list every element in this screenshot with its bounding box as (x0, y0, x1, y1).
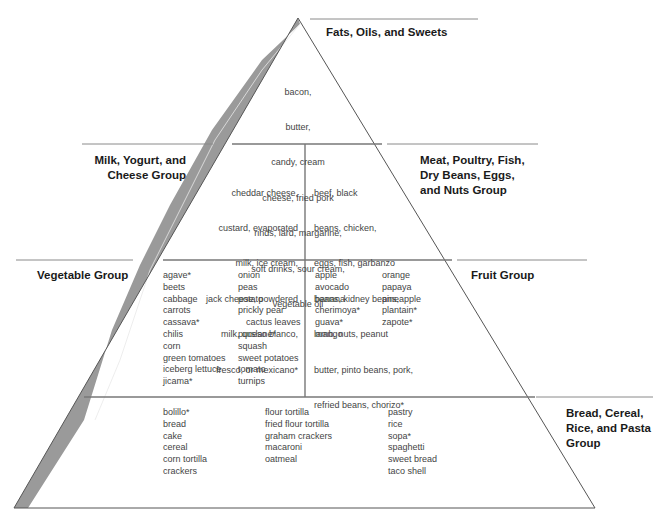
label-line-text: Rice, and Pasta (566, 421, 651, 436)
food-item: bolillo* (163, 407, 207, 419)
food-item: potato (238, 294, 301, 306)
food-item: guava* (315, 317, 360, 329)
food-item: taco shell (388, 466, 437, 478)
food-item: fried flour tortilla (265, 419, 332, 431)
food-item: plantain* (382, 305, 421, 317)
food-item: iceberg lettuce (163, 364, 226, 376)
foods-vegetable-col1: agave* beets cabbage carrots cassava* ch… (163, 270, 226, 388)
label-line-text: and Nuts Group (420, 183, 525, 198)
food-item: cabbage (163, 294, 226, 306)
foods-bread-col1: bolillo* bread cake cereal corn tortilla… (163, 407, 207, 478)
food-item: cake (163, 431, 207, 443)
label-meat-group: Meat, Poultry, Fish, Dry Beans, Eggs, an… (420, 153, 525, 198)
food-item: corn (163, 341, 226, 353)
food-item: orange (382, 270, 421, 282)
food-item: bacon, (238, 87, 358, 99)
food-item: sweet bread (388, 454, 437, 466)
food-item: cheddar cheese, (196, 188, 298, 200)
food-item: crackers (163, 466, 207, 478)
label-fruit-group: Fruit Group (471, 268, 534, 283)
food-item: beets (163, 282, 226, 294)
food-item: corn tortilla (163, 454, 207, 466)
food-item: chilis (163, 329, 226, 341)
food-item: eggs, fish, garbanzo (314, 258, 413, 270)
food-item: onion (238, 270, 301, 282)
label-vegetable-group: Vegetable Group (37, 268, 128, 283)
food-item: spaghetti (388, 442, 437, 454)
food-item: cassava* (163, 317, 226, 329)
label-fats-oils-sweets: Fats, Oils, and Sweets (326, 25, 447, 40)
food-item: avocado (315, 282, 360, 294)
food-item: zapote* (382, 317, 421, 329)
food-item: peas (238, 282, 301, 294)
food-item: cactus leaves (238, 317, 301, 329)
foods-bread-col2: flour tortilla fried flour tortilla grah… (265, 407, 332, 466)
food-item: sweet potatoes (238, 353, 301, 365)
food-item: purslane* (238, 329, 301, 341)
label-line-text: Milk, Yogurt, and (60, 153, 186, 168)
label-milk-group: Milk, Yogurt, and Cheese Group (60, 153, 186, 183)
foods-fruit-col2: orange papaya pineapple plantain* zapote… (382, 270, 421, 329)
food-item: rice (388, 419, 437, 431)
food-item: green tomatoes (163, 353, 226, 365)
foods-bread-col3: pastry rice sopa* spaghetti sweet bread … (388, 407, 437, 478)
food-item: agave* (163, 270, 226, 282)
food-item: turnips (238, 376, 301, 388)
label-line-text: Bread, Cereal, (566, 406, 651, 421)
food-item: flour tortilla (265, 407, 332, 419)
food-item: graham crackers (265, 431, 332, 443)
label-line-text: Dry Beans, Eggs, (420, 168, 525, 183)
food-item: butter, (238, 122, 358, 134)
food-item: carrots (163, 305, 226, 317)
food-item: pastry (388, 407, 437, 419)
food-guide-pyramid: Fats, Oils, and Sweets bacon, butter, ca… (0, 0, 663, 515)
food-item: bread (163, 419, 207, 431)
food-item: cherimoya* (315, 305, 360, 317)
food-item: custard, evaporated (196, 223, 298, 235)
label-bread-group: Bread, Cereal, Rice, and Pasta Group (566, 406, 651, 451)
label-line-text: Meat, Poultry, Fish, (420, 153, 525, 168)
food-item: squash (238, 341, 301, 353)
food-item: butter, pinto beans, pork, (314, 365, 413, 377)
food-item: cereal (163, 442, 207, 454)
foods-vegetable-col2: onion peas potato prickly pear cactus le… (238, 270, 301, 388)
label-line-text: Cheese Group (60, 168, 186, 183)
food-item: prickly pear (238, 305, 301, 317)
foods-fruit-col1: apple avocado banana cherimoya* guava* m… (315, 270, 360, 341)
food-item: pineapple (382, 294, 421, 306)
food-item: beans, chicken, (314, 223, 413, 235)
food-item: beef, black (314, 188, 413, 200)
food-item: macaroni (265, 442, 332, 454)
food-item: papaya (382, 282, 421, 294)
label-line-text: Group (566, 436, 651, 451)
food-item: jicama* (163, 376, 226, 388)
food-item: apple (315, 270, 360, 282)
food-item: milk, ice cream, (196, 258, 298, 270)
food-item: tomato (238, 364, 301, 376)
food-item: sopa* (388, 431, 437, 443)
food-item: banana (315, 294, 360, 306)
food-item: oatmeal (265, 454, 332, 466)
food-item: mango (315, 329, 360, 341)
